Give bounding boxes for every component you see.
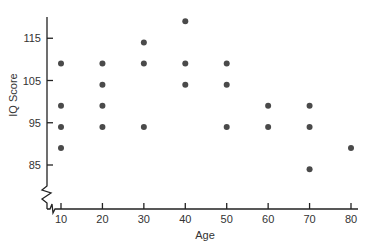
data-point xyxy=(348,145,354,151)
data-point xyxy=(58,124,64,130)
data-point xyxy=(265,124,271,130)
x-tick-label: 80 xyxy=(345,213,357,225)
data-point xyxy=(58,145,64,151)
y-tick-label: 105 xyxy=(23,75,41,87)
x-axis: 1020304050607080 xyxy=(47,203,358,225)
data-point xyxy=(265,103,271,109)
data-point xyxy=(182,18,188,24)
data-point xyxy=(99,61,105,67)
x-axis-line xyxy=(47,204,358,213)
data-point xyxy=(224,82,230,88)
data-point xyxy=(182,82,188,88)
y-tick-label: 85 xyxy=(29,159,41,171)
data-point xyxy=(99,103,105,109)
data-point xyxy=(58,103,64,109)
y-axis-line xyxy=(42,17,51,209)
data-point xyxy=(182,61,188,67)
x-axis-title: Age xyxy=(195,229,215,241)
data-point xyxy=(307,124,313,130)
data-point xyxy=(141,61,147,67)
data-point xyxy=(307,166,313,172)
x-tick-label: 50 xyxy=(221,213,233,225)
x-tick-label: 60 xyxy=(262,213,274,225)
x-tick-label: 40 xyxy=(179,213,191,225)
y-tick-label: 95 xyxy=(29,117,41,129)
y-axis: 8595105115 xyxy=(23,17,53,209)
x-ticks: 1020304050607080 xyxy=(55,203,357,225)
data-point xyxy=(307,103,313,109)
x-tick-label: 20 xyxy=(96,213,108,225)
data-point xyxy=(99,124,105,130)
data-point xyxy=(58,61,64,67)
x-tick-label: 70 xyxy=(303,213,315,225)
scatter-chart: 8595105115 1020304050607080 Age IQ Score xyxy=(0,0,370,251)
data-point xyxy=(141,124,147,130)
data-point xyxy=(224,124,230,130)
data-point xyxy=(224,61,230,67)
x-tick-label: 10 xyxy=(55,213,67,225)
x-tick-label: 30 xyxy=(138,213,150,225)
data-point xyxy=(99,82,105,88)
data-points xyxy=(58,18,354,172)
y-tick-label: 115 xyxy=(23,32,41,44)
data-point xyxy=(141,39,147,45)
y-axis-title: IQ Score xyxy=(7,73,19,116)
y-ticks: 8595105115 xyxy=(23,32,53,171)
